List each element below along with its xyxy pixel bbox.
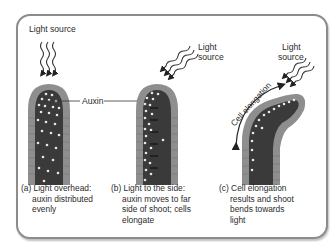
light-source-label-c-line2: source [278,52,304,63]
light-rays-icon-a [41,42,56,74]
caption-a-line3: evenly [21,204,93,215]
caption-a-line2: auxin distributed [21,194,93,205]
light-source-label-b-line1: Light [198,42,217,53]
caption-b-line2: auxin moves to far [111,194,191,205]
light-rays-icon-b [162,46,198,78]
caption-c-line2: results and shoot [219,194,294,205]
caption-c: (c) Cell elongation results and shoot be… [219,183,294,225]
caption-b: (b) Light to the side: auxin moves to fa… [111,183,191,225]
light-source-label-a: Light source [29,24,76,35]
caption-a-line1: (a) Light overhead: [21,183,93,194]
shoot-tip-b [136,84,178,185]
caption-c-line4: light [219,215,294,226]
caption-b-line3: side of shoot; cells [111,204,191,215]
light-source-label-b-line2: source [198,52,224,63]
light-source-label-c-line1: Light [282,42,301,53]
auxin-label: Auxin [82,96,104,107]
caption-a: (a) Light overhead: auxin distributed ev… [21,183,93,215]
caption-c-line1: (c) Cell elongation [219,183,294,194]
caption-c-line3: bends towards [219,204,294,215]
shoot-tip-a [28,84,70,185]
caption-b-line4: elongate [111,215,191,226]
caption-b-line1: (b) Light to the side: [111,183,191,194]
